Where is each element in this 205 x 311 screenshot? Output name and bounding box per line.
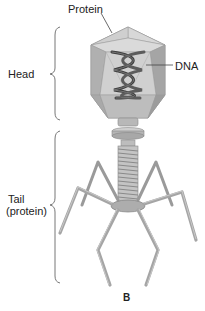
head-bracket [50,27,60,120]
protein-label: Protein [68,3,103,15]
collar [112,118,144,140]
tail-protein-label: (protein) [6,205,47,217]
panel-letter: B [123,292,130,303]
tail-bracket [50,131,60,283]
tail-label: Tail [8,193,25,205]
capsid [91,27,165,118]
phage-diagram [0,0,205,311]
protein-leader-line [101,13,112,33]
tail-sheath [118,140,138,202]
dna-label: DNA [175,60,198,72]
head-label: Head [8,68,34,80]
